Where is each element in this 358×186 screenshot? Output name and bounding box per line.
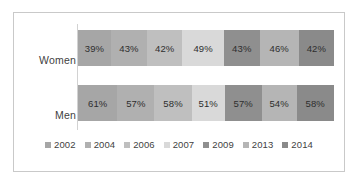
legend-item-2002[interactable]: 2002 — [45, 139, 76, 150]
bar-segment-label: 61% — [88, 98, 107, 109]
bar-segment-label: 43% — [232, 43, 251, 54]
bar-segment: 46% — [260, 30, 299, 66]
legend-swatch-icon — [203, 142, 209, 148]
legend-swatch-icon — [124, 142, 130, 148]
bar-segment: 58% — [154, 85, 192, 121]
bar-segment-label: 49% — [193, 43, 212, 54]
bar-segment-label: 42% — [307, 43, 326, 54]
bar-segment: 57% — [225, 85, 262, 121]
legend-item-2009[interactable]: 2009 — [203, 139, 234, 150]
legend-swatch-icon — [85, 142, 91, 148]
bar-segment-label: 43% — [119, 43, 138, 54]
legend-swatch-icon — [45, 142, 51, 148]
bar-segment-label: 51% — [199, 98, 218, 109]
bar-segment: 49% — [182, 30, 223, 66]
bar-segment: 61% — [78, 85, 117, 121]
category-label-men: Men — [6, 109, 76, 121]
bar-segment: 39% — [78, 30, 111, 66]
bar-segment-label: 39% — [85, 43, 104, 54]
stacked-bar-women: 39%43%42%49%43%46%42% — [78, 30, 334, 66]
legend-item-2004[interactable]: 2004 — [85, 139, 116, 150]
bar-segment-label: 58% — [306, 98, 325, 109]
legend-item-2013[interactable]: 2013 — [243, 139, 274, 150]
plot-area: Women Men 39%43%42%49%43%46%42% 61%57%58… — [14, 13, 344, 132]
legend-label: 2007 — [173, 139, 195, 150]
bar-segment: 57% — [117, 85, 154, 121]
bar-segment: 43% — [111, 30, 147, 66]
chart-legend: 2002200420062007200920132014 — [14, 139, 344, 150]
legend-label: 2014 — [291, 139, 313, 150]
bar-segment: 42% — [147, 30, 182, 66]
chart-frame: Women Men 39%43%42%49%43%46%42% 61%57%58… — [13, 12, 345, 172]
legend-swatch-icon — [164, 142, 170, 148]
bar-segment-label: 57% — [126, 98, 145, 109]
legend-label: 2004 — [94, 139, 116, 150]
legend-label: 2013 — [252, 139, 274, 150]
bar-segment-label: 54% — [269, 98, 288, 109]
bar-segment: 58% — [297, 85, 335, 121]
legend-swatch-icon — [282, 142, 288, 148]
bar-segment: 42% — [299, 30, 334, 66]
bar-segment: 54% — [262, 85, 297, 121]
legend-label: 2002 — [54, 139, 76, 150]
legend-swatch-icon — [243, 142, 249, 148]
bar-segment-label: 57% — [234, 98, 253, 109]
bar-segment: 51% — [192, 85, 225, 121]
stacked-bar-men: 61%57%58%51%57%54%58% — [78, 85, 334, 121]
legend-item-2007[interactable]: 2007 — [164, 139, 195, 150]
legend-label: 2009 — [212, 139, 234, 150]
bar-segment-label: 58% — [163, 98, 182, 109]
bar-segment-label: 46% — [270, 43, 289, 54]
legend-item-2014[interactable]: 2014 — [282, 139, 313, 150]
category-label-women: Women — [6, 54, 76, 66]
bar-segment-label: 42% — [155, 43, 174, 54]
bar-segment: 43% — [224, 30, 260, 66]
legend-item-2006[interactable]: 2006 — [124, 139, 155, 150]
legend-label: 2006 — [133, 139, 155, 150]
